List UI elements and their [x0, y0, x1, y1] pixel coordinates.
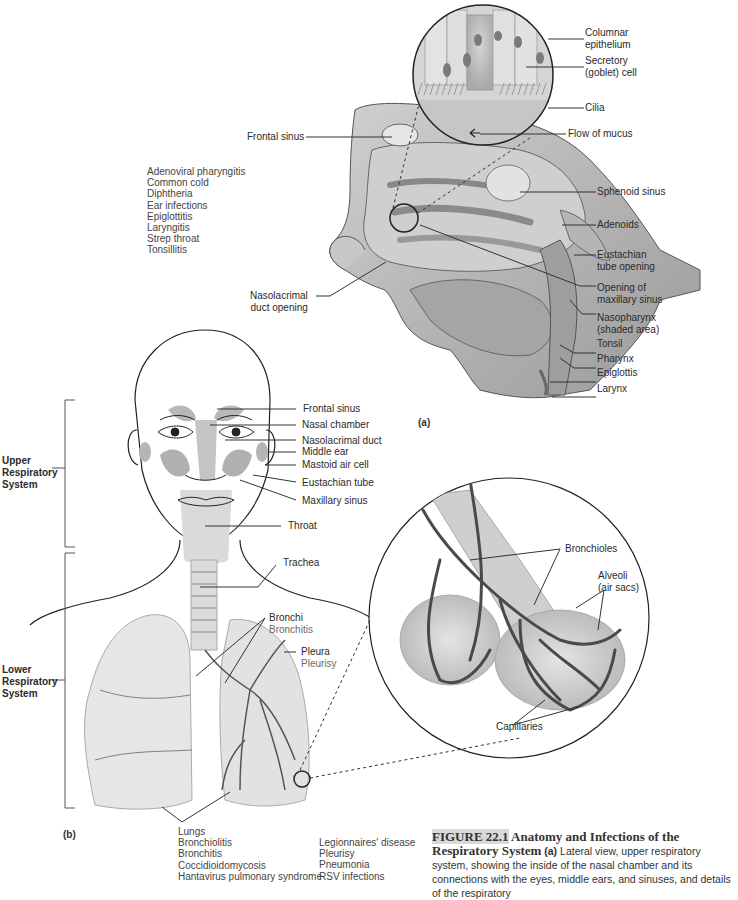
- label-alveoli: Alveoli (air sacs): [598, 570, 639, 594]
- infection-item: RSV infections: [319, 871, 415, 882]
- label-larynx: Larynx: [597, 383, 627, 395]
- infection-item: Pleurisy: [319, 848, 415, 859]
- label-frontal-sinus-a: Frontal sinus: [247, 131, 304, 143]
- lower-infections-list-1: Lungs Bronchiolitis Bronchitis Coccidioi…: [178, 826, 322, 882]
- label-maxillary-sinus: Maxillary sinus: [302, 495, 368, 507]
- label-nasolacrimal-opening: Nasolacrimal duct opening: [250, 290, 308, 314]
- label-tonsil: Tonsil: [597, 338, 623, 350]
- label-goblet-cell: Secretory (goblet) cell: [585, 55, 637, 79]
- label-adenoids: Adenoids: [597, 219, 639, 231]
- panel-a-tag: (a): [418, 417, 430, 428]
- figure-caption: FIGURE 22.1 Anatomy and Infections of th…: [432, 830, 732, 900]
- label-bronchitis: Bronchitis: [269, 624, 313, 636]
- lower-infections-list-2: Legionnaires' disease Pleurisy Pneumonia…: [319, 837, 415, 882]
- label-line: Columnar: [585, 27, 631, 39]
- figure-number: FIGURE 22.1: [432, 829, 509, 844]
- label-line: Secretory: [585, 55, 637, 67]
- upper-infections-list: Adenoviral pharyngitis Common cold Dipht…: [147, 166, 245, 256]
- infection-item: Bronchitis: [178, 848, 322, 859]
- label-capillaries: Capillaries: [496, 721, 543, 733]
- label-line: System: [2, 688, 58, 700]
- label-middle-ear: Middle ear: [302, 446, 349, 458]
- label-eustachian-tube: Eustachian tube: [302, 477, 374, 489]
- alveoli-inset: [300, 478, 649, 778]
- label-line: (air sacs): [598, 582, 639, 594]
- label-eustachian-opening: Eustachian tube opening: [597, 249, 655, 273]
- infection-item: Bronchiolitis: [178, 837, 322, 848]
- infection-item: Legionnaires' disease: [319, 837, 415, 848]
- label-throat: Throat: [288, 520, 317, 532]
- infection-item: Hantavirus pulmonary syndrome: [178, 871, 322, 882]
- epithelium-inset: [410, 5, 584, 145]
- label-line: Lower: [2, 664, 58, 676]
- label-line: Eustachian: [597, 249, 655, 261]
- infection-item: Pneumonia: [319, 859, 415, 870]
- infection-item: Adenoviral pharyngitis: [147, 166, 245, 177]
- label-line: Respiratory: [2, 676, 58, 688]
- label-pleura: Pleura: [301, 646, 330, 658]
- lungs-heading: Lungs: [178, 826, 322, 837]
- label-line: Opening of: [597, 282, 663, 294]
- label-pharynx: Pharynx: [597, 353, 634, 365]
- infection-item: Common cold: [147, 177, 245, 188]
- label-nasopharynx: Nasopharynx (shaded area): [597, 312, 659, 336]
- label-bronchioles: Bronchioles: [565, 543, 617, 555]
- label-line: maxillary sinus: [597, 294, 663, 306]
- label-line: tube opening: [597, 261, 655, 273]
- label-frontal-sinus-b: Frontal sinus: [303, 403, 360, 415]
- label-cilia: Cilia: [585, 102, 604, 114]
- label-lower-respiratory-system: Lower Respiratory System: [2, 664, 58, 700]
- label-line: Respiratory: [2, 467, 58, 479]
- label-epiglottis: Epiglottis: [597, 367, 638, 379]
- label-line: Nasopharynx: [597, 312, 659, 324]
- label-line: (shaded area): [597, 324, 659, 336]
- infection-item: Coccidioidomycosis: [178, 860, 322, 871]
- infection-item: Laryngitis: [147, 222, 245, 233]
- label-line: Nasolacrimal: [250, 290, 308, 302]
- label-bronchi: Bronchi: [269, 612, 303, 624]
- trachea: [191, 560, 217, 650]
- label-mastoid-air-cell: Mastoid air cell: [302, 459, 369, 471]
- label-nasal-chamber: Nasal chamber: [302, 419, 369, 431]
- label-upper-respiratory-system: Upper Respiratory System: [2, 455, 58, 491]
- label-flow-of-mucus: Flow of mucus: [568, 128, 632, 140]
- label-columnar-epithelium: Columnar epithelium: [585, 27, 631, 51]
- infection-item: Ear infections: [147, 200, 245, 211]
- label-maxillary-opening: Opening of maxillary sinus: [597, 282, 663, 306]
- infection-item: Epiglottitis: [147, 211, 245, 222]
- panel-b-tag: (b): [63, 829, 76, 840]
- label-pleurisy: Pleurisy: [301, 658, 337, 670]
- label-line: Alveoli: [598, 570, 639, 582]
- label-line: Upper: [2, 455, 58, 467]
- infection-item: Strep throat: [147, 233, 245, 244]
- label-trachea: Trachea: [283, 557, 319, 569]
- label-line: duct opening: [250, 302, 308, 314]
- label-line: epithelium: [585, 39, 631, 51]
- infection-item: Tonsillitis: [147, 244, 245, 255]
- infection-item: Diphtheria: [147, 188, 245, 199]
- label-line: (goblet) cell: [585, 67, 637, 79]
- label-line: System: [2, 479, 58, 491]
- label-sphenoid-sinus: Sphenoid sinus: [597, 186, 665, 198]
- caption-part-a: (a): [544, 845, 557, 857]
